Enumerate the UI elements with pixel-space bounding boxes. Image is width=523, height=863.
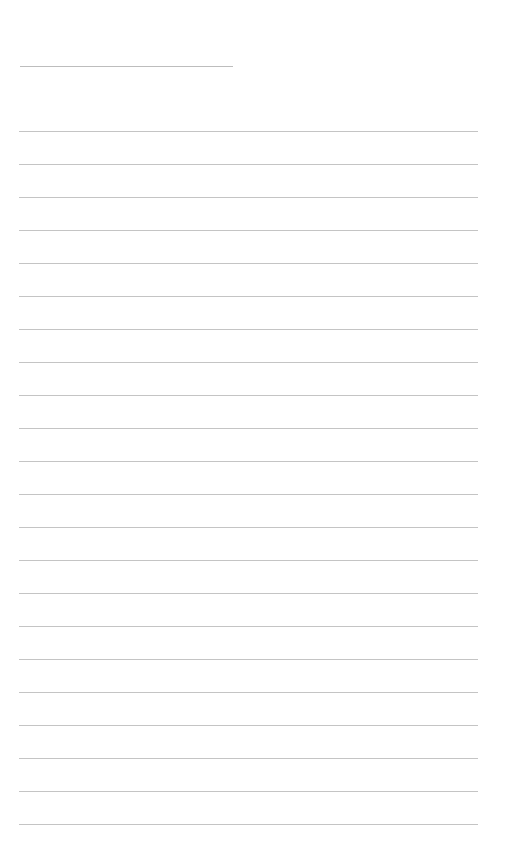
ruled-line	[19, 593, 478, 594]
ruled-line	[19, 758, 478, 759]
ruled-line	[19, 164, 478, 165]
ruled-line	[19, 296, 478, 297]
ruled-line	[19, 560, 478, 561]
ruled-line	[19, 692, 478, 693]
ruled-line	[19, 428, 478, 429]
ruled-line	[19, 263, 478, 264]
ruled-line	[19, 131, 478, 132]
ruled-line	[19, 626, 478, 627]
ruled-line	[19, 791, 478, 792]
ruled-line	[19, 494, 478, 495]
lined-page	[0, 0, 523, 863]
ruled-line	[19, 230, 478, 231]
ruled-line	[19, 362, 478, 363]
ruled-line	[19, 197, 478, 198]
ruled-line	[19, 395, 478, 396]
ruled-line	[19, 659, 478, 660]
ruled-line	[19, 725, 478, 726]
ruled-line	[19, 461, 478, 462]
ruled-line	[19, 329, 478, 330]
ruled-line	[19, 527, 478, 528]
title-line	[20, 66, 233, 67]
ruled-line	[19, 824, 478, 825]
